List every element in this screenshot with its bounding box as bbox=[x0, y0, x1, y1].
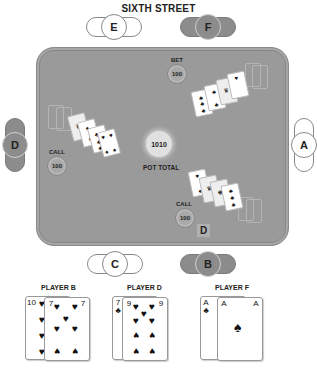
card-rank: A bbox=[252, 300, 260, 308]
heart-icon: ♥ bbox=[54, 302, 60, 312]
dealer-button: D bbox=[197, 224, 210, 237]
heart-icon: ♥ bbox=[141, 309, 147, 319]
seat-a-label: A bbox=[291, 132, 317, 158]
call-label-bottom: CALL bbox=[173, 201, 195, 207]
pot-total-label: POT TOTAL bbox=[143, 164, 179, 171]
spade-icon: ♠ bbox=[234, 322, 241, 332]
seat-e[interactable]: E bbox=[86, 17, 142, 37]
seat-b-label: B bbox=[195, 251, 221, 277]
player-d-label: PLAYER D bbox=[127, 284, 162, 291]
card-rank: 10 bbox=[27, 299, 35, 307]
card-rank: 9 bbox=[157, 300, 165, 308]
pot-chip: 1010 bbox=[146, 131, 172, 157]
club-icon: ♣ bbox=[202, 307, 210, 315]
heart-icon: ♥ bbox=[72, 346, 78, 356]
heart-icon: ♥ bbox=[133, 330, 139, 340]
card-rank: 9 bbox=[125, 300, 133, 308]
heart-icon: ♥ bbox=[149, 346, 155, 356]
player-d-card-2: 9 9 ♥ ♥ ♥ ♥ ♥ ♥ ♥ ♥ ♥ bbox=[122, 297, 168, 361]
heart-icon: ♥ bbox=[54, 346, 60, 356]
call-label-left: CALL bbox=[46, 149, 68, 155]
heart-icon: ♥ bbox=[149, 302, 155, 312]
player-b-label: PLAYER B bbox=[41, 284, 76, 291]
seat-d-label: D bbox=[2, 132, 28, 158]
seat-c-label: C bbox=[102, 251, 128, 277]
heart-icon: ♥ bbox=[54, 324, 60, 334]
bet-chip: 100 bbox=[167, 64, 187, 84]
card-rank: A bbox=[220, 300, 228, 308]
heart-icon: ♥ bbox=[133, 346, 139, 356]
seat-f[interactable]: F bbox=[180, 17, 236, 37]
seat-c[interactable]: C bbox=[87, 254, 143, 274]
seat-b[interactable]: B bbox=[180, 254, 236, 274]
bet-label: BET bbox=[166, 57, 188, 63]
player-b-card-2: 7 7 ♥ ♥ ♥ ♥ ♥ ♥ ♥ bbox=[44, 297, 90, 361]
player-f-card-2: A A ♠ bbox=[217, 297, 263, 361]
street-title: SIXTH STREET bbox=[0, 3, 317, 14]
heart-icon: ♥ bbox=[149, 330, 155, 340]
club-icon: ♣ bbox=[114, 307, 122, 315]
heart-icon: ♥ bbox=[133, 302, 139, 312]
heart-icon: ♥ bbox=[72, 302, 78, 312]
seat-d[interactable]: D bbox=[5, 118, 25, 172]
heart-icon: ♥ bbox=[133, 316, 139, 326]
heart-icon: ♥ bbox=[149, 316, 155, 326]
seat-a[interactable]: A bbox=[294, 118, 314, 172]
seat-f-label: F bbox=[195, 14, 221, 40]
seat-e-label: E bbox=[101, 14, 127, 40]
call-chip-left: 100 bbox=[47, 156, 67, 176]
folded-card bbox=[252, 65, 268, 89]
heart-icon: ♥ bbox=[63, 314, 69, 324]
folded-card bbox=[246, 199, 262, 223]
heart-icon: ♥ bbox=[72, 324, 78, 334]
call-chip-bottom: 100 bbox=[175, 208, 195, 228]
player-f-label: PLAYER F bbox=[215, 284, 249, 291]
card-rank: 7 bbox=[79, 300, 87, 308]
